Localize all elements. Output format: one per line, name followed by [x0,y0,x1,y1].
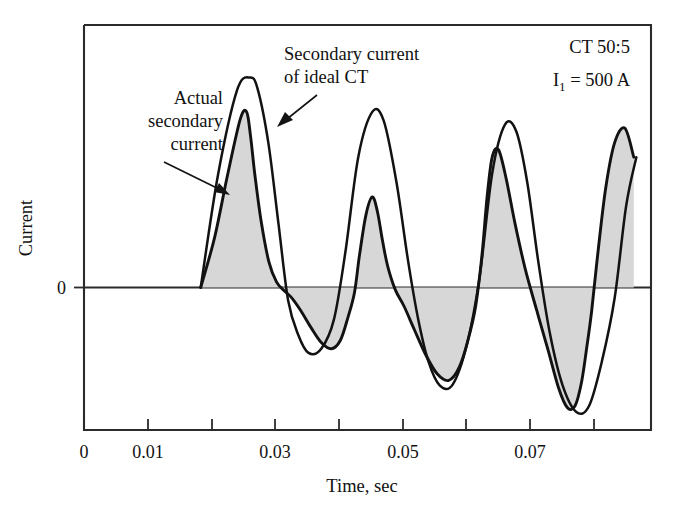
annotation-ideal-ct-current: Secondary current of ideal CT [277,44,420,127]
annotation-ideal-line1: Secondary current [284,44,420,64]
primary-current-value: = 500 A [566,70,631,90]
x-tick-label-0.05: 0.05 [387,442,419,462]
primary-current-label: I1 = 500 A [553,70,631,94]
annotation-ideal-arrowhead [277,112,293,127]
annotation-actual-leader-line [164,162,225,192]
y-axis-title: Current [16,199,36,256]
waveform-traces [201,77,637,414]
ct-ratio-label: CT 50:5 [569,37,630,57]
waveform-figure: 0 0.01 0.03 0.05 0.07 0 Time, sec Curren… [0,0,685,512]
annotation-ct-rating: CT 50:5 I1 = 500 A [553,37,631,94]
x-tick-label-0.03: 0.03 [259,442,291,462]
annotation-ideal-line2: of ideal CT [284,67,368,87]
annotation-actual-line3: current [171,134,224,154]
x-tick-label-0.01: 0.01 [132,442,164,462]
x-tick-label-0: 0 [80,442,89,462]
figure-container: 0 0.01 0.03 0.05 0.07 0 Time, sec Curren… [0,0,685,512]
annotation-actual-line1: Actual [174,88,223,108]
actual-current-fill [201,110,634,409]
y-tick-label-zero: 0 [57,278,66,298]
x-tick-label-0.07: 0.07 [514,442,546,462]
annotation-actual-line2: secondary [148,111,224,131]
x-axis-title: Time, sec [326,476,397,496]
x-axis-ticks [84,419,594,430]
